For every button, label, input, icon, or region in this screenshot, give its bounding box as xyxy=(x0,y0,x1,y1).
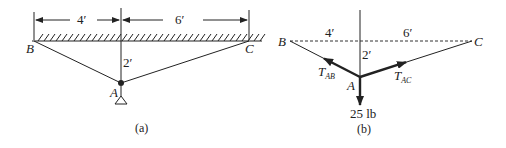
hatch-mark xyxy=(74,34,79,41)
hatch-mark xyxy=(218,34,223,41)
figure-a: 4′ 6′ B C A 2′ (a) xyxy=(26,8,265,135)
hatch-mark xyxy=(194,34,199,41)
hatch-mark xyxy=(200,34,205,41)
figure-b: B C A 4′ 6′ 2′ TAB TAC 25 lb (b) xyxy=(278,10,483,136)
hatch-mark xyxy=(110,34,115,41)
cable-ac xyxy=(121,41,249,83)
dim-label-2ft-b: 2′ xyxy=(362,47,372,62)
hatch-mark xyxy=(224,34,229,41)
hatch-mark xyxy=(116,34,121,41)
hatch-mark xyxy=(62,34,67,41)
hatch-mark xyxy=(86,34,91,41)
hatch-mark xyxy=(98,34,103,41)
hatch-mark xyxy=(68,34,73,41)
hatch-mark xyxy=(134,34,139,41)
dim-label-6ft-b: 6′ xyxy=(403,25,413,40)
hatch-mark xyxy=(206,34,211,41)
point-label-c: C xyxy=(245,41,254,56)
load-label: 25 lb xyxy=(350,106,376,121)
hatch-mark xyxy=(152,34,157,41)
dim-label-2ft: 2′ xyxy=(123,55,133,70)
hatch-mark xyxy=(236,34,241,41)
caption-a: (a) xyxy=(135,121,148,135)
tension-label-ab-sub: AB xyxy=(324,72,335,81)
point-label-c-b: C xyxy=(474,34,483,49)
point-label-a: A xyxy=(109,85,118,100)
hatch-mark xyxy=(128,34,133,41)
joint-a-dot xyxy=(118,80,124,86)
hatch-mark xyxy=(158,34,163,41)
diagram-canvas: 4′ 6′ B C A 2′ (a) xyxy=(0,0,506,148)
hatch-mark xyxy=(242,34,247,41)
hatch-mark xyxy=(182,34,187,41)
hatch-mark xyxy=(254,34,259,41)
dim-label-4ft-b: 4′ xyxy=(325,25,335,40)
hatch-mark xyxy=(188,34,193,41)
dim-label-4ft: 4′ xyxy=(77,12,87,27)
hatch-mark xyxy=(176,34,181,41)
hatch-mark xyxy=(260,34,265,41)
hatch-mark xyxy=(104,34,109,41)
hatch-mark xyxy=(146,34,151,41)
hatch-mark xyxy=(80,34,85,41)
tension-label-ac-sub: AC xyxy=(400,76,412,85)
hatch-mark xyxy=(164,34,169,41)
point-label-a-b: A xyxy=(346,78,355,93)
hatch-mark xyxy=(92,34,97,41)
caption-b: (b) xyxy=(357,122,371,136)
tension-label-ac: TAC xyxy=(394,68,412,85)
hatch-mark xyxy=(140,34,145,41)
hatch-mark xyxy=(122,34,127,41)
hatch-mark xyxy=(38,34,43,41)
tension-label-ab: TAB xyxy=(318,64,335,81)
hatch-mark xyxy=(44,34,49,41)
hatch-mark xyxy=(230,34,235,41)
hatch-mark xyxy=(56,34,61,41)
ceiling-hatching xyxy=(38,34,265,41)
point-label-b-b: B xyxy=(278,34,286,49)
cable-ab xyxy=(34,41,121,83)
hatch-mark xyxy=(50,34,55,41)
hatch-mark xyxy=(170,34,175,41)
point-label-b: B xyxy=(26,41,34,56)
dim-label-6ft: 6′ xyxy=(175,12,185,27)
hatch-mark xyxy=(212,34,217,41)
